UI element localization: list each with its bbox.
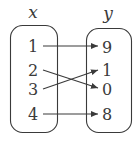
- range-value-0: 0: [102, 80, 112, 99]
- range-value-8: 8: [102, 105, 112, 124]
- mapping-diagram: x y 1 2 3 4 9 1 0 8: [0, 0, 136, 147]
- range-value-1: 1: [102, 61, 112, 80]
- domain-value-1: 1: [28, 37, 38, 56]
- domain-value-4: 4: [28, 105, 38, 124]
- domain-label: x: [28, 2, 38, 22]
- range-value-9: 9: [102, 38, 112, 57]
- domain-value-2: 2: [28, 61, 38, 80]
- mapping-diagram-svg: x y 1 2 3 4 9 1 0 8: [0, 0, 136, 147]
- domain-value-3: 3: [28, 80, 38, 99]
- range-label: y: [102, 3, 113, 23]
